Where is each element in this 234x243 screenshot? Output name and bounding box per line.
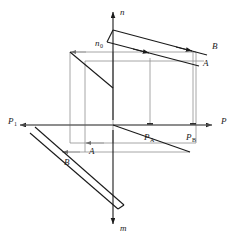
point-label-b-upper: B bbox=[212, 41, 218, 51]
arrow-upper-b bbox=[176, 47, 192, 51]
point-label-a-lower: A bbox=[88, 146, 95, 156]
axis-label-p: P bbox=[220, 116, 227, 126]
oblique-upper-to-a bbox=[107, 42, 199, 66]
trace-label-pa: PA bbox=[143, 132, 155, 143]
axis-label-p1-sub: 1 bbox=[14, 121, 17, 127]
oblique-lower-to-b bbox=[30, 133, 118, 209]
axis-label-p1: P1 bbox=[7, 116, 17, 127]
oblique-upper-to-b bbox=[113, 30, 207, 55]
construction-arrow-marks bbox=[63, 52, 104, 152]
arrow-upper-a bbox=[133, 49, 149, 53]
point-label-a-upper: A bbox=[202, 58, 209, 68]
lower-oblique-lines bbox=[30, 127, 124, 209]
trace-label-pb-base: P bbox=[185, 132, 192, 142]
trace-label-pb: PB bbox=[185, 132, 196, 143]
construction-lines bbox=[62, 52, 204, 152]
point-label-b-lower: B bbox=[64, 157, 70, 167]
trace-label-pa-base: P bbox=[143, 132, 150, 142]
axis-label-p1-base: P bbox=[7, 116, 14, 126]
box-diagonals bbox=[70, 52, 190, 152]
trace-label-pb-sub: B bbox=[192, 137, 196, 143]
trace-label-pa-sub: A bbox=[150, 137, 155, 143]
oblique-lower-connector bbox=[118, 205, 124, 209]
figure-canvas: n m P P1 n0 PA PB B A A B bbox=[0, 0, 234, 243]
axis-label-m: m bbox=[120, 223, 127, 233]
oblique-upper-connector bbox=[107, 30, 113, 42]
diagonal-upper-box bbox=[70, 52, 113, 88]
projection-figure: n m P P1 n0 PA PB B A A B bbox=[0, 0, 234, 243]
trace-label-n0-sub: 0 bbox=[100, 43, 103, 49]
axis-label-n: n bbox=[120, 7, 125, 17]
oblique-lower-to-a bbox=[35, 127, 124, 205]
trace-label-n0: n0 bbox=[95, 38, 103, 49]
